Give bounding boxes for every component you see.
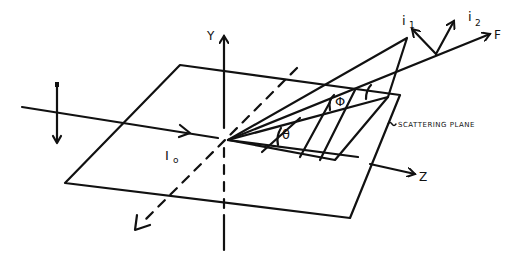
i2-label: i [468,9,472,24]
z-axis [370,164,415,174]
polarization-arrowhead-up [55,82,59,87]
y-axis-label: Y [206,29,215,43]
F-label: F [494,28,501,42]
i2-subscript: 2 [475,18,481,28]
plane-top-edge [228,97,388,140]
incident-label: I [165,148,169,163]
i1-subscript: 1 [409,20,415,30]
scattering-diagram: Y I o Z F i 1 i 2 θ Φ SCATTERING PLANE [0,0,524,261]
incident-subscript: o [173,155,179,165]
scattering-plane-label: SCATTERING PLANE [398,121,475,129]
z-axis-label: Z [419,170,427,184]
i1-vector [412,29,436,54]
i1-label: i [402,13,406,28]
theta-label: θ [282,127,290,142]
phi-label: Φ [335,94,345,109]
